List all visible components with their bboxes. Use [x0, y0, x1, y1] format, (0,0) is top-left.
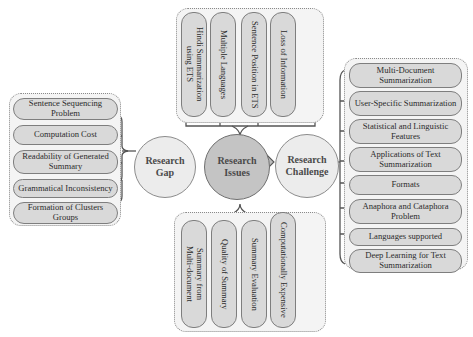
research-challenge-item: Formats	[349, 175, 462, 195]
research-issues-bottom-item: Computationally Expensive	[270, 212, 296, 328]
research-challenge-item: Deep Learning for Text Summarization	[349, 249, 462, 273]
research-issues-node: Research Issues	[204, 134, 270, 200]
research-gap-node: Research Gap	[134, 136, 196, 198]
research-challenge-node: Research Challenge	[275, 134, 339, 198]
research-issues-bottom-item: Quality of Summary	[211, 220, 237, 328]
research-issues-top-item: Loss of Information	[270, 12, 296, 117]
research-gap-item: Formation of Clusters Groups	[13, 202, 118, 224]
research-issues-top-item: Sentence Position in ETS	[241, 12, 267, 117]
research-gap-item: Computation Cost	[13, 125, 118, 145]
research-issues-top-item: Multiple Languages	[210, 12, 236, 117]
research-issues-bottom-item: Summary Evaluation	[241, 220, 267, 328]
research-challenge-item: Applications of Text Summarization	[349, 147, 462, 172]
research-issues-bottom-item: Summary from Multi-document	[181, 220, 207, 328]
research-challenge-item: Statistical and Linguistic Features	[349, 119, 462, 144]
research-gap-item: Readability of Generated Summary	[13, 150, 118, 174]
research-challenge-item: User-Specific Summarization	[349, 91, 462, 116]
research-challenge-item: Multi-Document Summarization	[349, 63, 462, 88]
research-gap-item: Sentence Sequencing Problem	[13, 98, 118, 120]
research-challenge-item: Languages supported	[349, 228, 462, 246]
research-challenge-item: Anaphora and Cataphora Problem	[349, 199, 462, 224]
research-gap-item: Grammatical Inconsistency	[13, 179, 118, 198]
research-issues-top-item: Hindi Summarization using ETS	[181, 12, 207, 117]
